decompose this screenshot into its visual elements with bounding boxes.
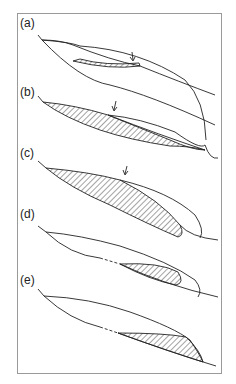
panel-e xyxy=(38,289,216,366)
surface-start-b xyxy=(38,96,43,102)
dashed-segment-d xyxy=(100,258,120,264)
arrow-icon-b xyxy=(112,101,117,111)
surface-line-d xyxy=(38,226,200,297)
diagram-canvas xyxy=(0,0,236,384)
panel-b xyxy=(38,96,218,158)
hatched-zone-a xyxy=(73,59,140,67)
hatched-zone-b xyxy=(43,102,205,150)
basal-line-e xyxy=(44,296,100,327)
dashed-segment-e xyxy=(100,327,118,333)
surface-start-c xyxy=(38,161,46,168)
panel-c xyxy=(38,161,218,240)
toe-line-c xyxy=(180,225,218,240)
panel-d xyxy=(38,226,218,297)
hatched-zone-c xyxy=(46,168,182,237)
arrow-icon-a xyxy=(130,52,135,61)
arrow-icon-c xyxy=(123,166,128,175)
